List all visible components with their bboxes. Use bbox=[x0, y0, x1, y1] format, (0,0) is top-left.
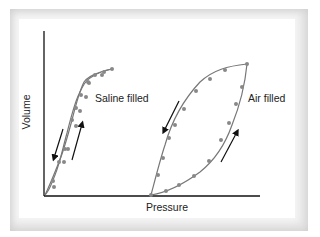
saline-inflation-arrow-icon bbox=[72, 124, 82, 160]
air-filled-label: Air filled bbox=[248, 92, 285, 104]
x-axis-label: Pressure bbox=[146, 201, 188, 213]
air-inflation-arrow-icon bbox=[221, 132, 237, 162]
saline-inflation-curve bbox=[45, 69, 112, 195]
saline-filled-label: Saline filled bbox=[95, 92, 149, 104]
y-axis-label: Volume bbox=[20, 94, 32, 129]
